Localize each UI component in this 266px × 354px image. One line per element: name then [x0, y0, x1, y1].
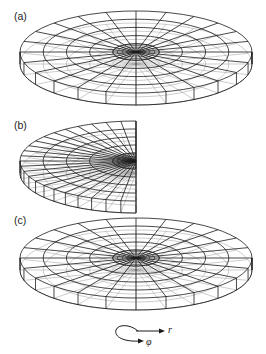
legend-phi-label: φ [146, 336, 152, 347]
panel-b-half-disk-mesh [20, 121, 136, 213]
phi-arrowhead-icon [138, 339, 144, 344]
panel-label-c: (c) [14, 214, 26, 226]
panel-label-a: (a) [14, 10, 27, 22]
phi-loop-arrow-icon [116, 326, 140, 342]
r-arrowhead-icon [159, 329, 165, 334]
panel-label-b: (b) [14, 119, 27, 131]
coordinate-legend [116, 326, 165, 344]
legend-r-label: r [168, 324, 172, 335]
panel-c-full-disk-mesh [20, 218, 252, 310]
cylindrical-mesh-figure [0, 0, 266, 354]
panel-a-full-disk-mesh [20, 11, 252, 105]
